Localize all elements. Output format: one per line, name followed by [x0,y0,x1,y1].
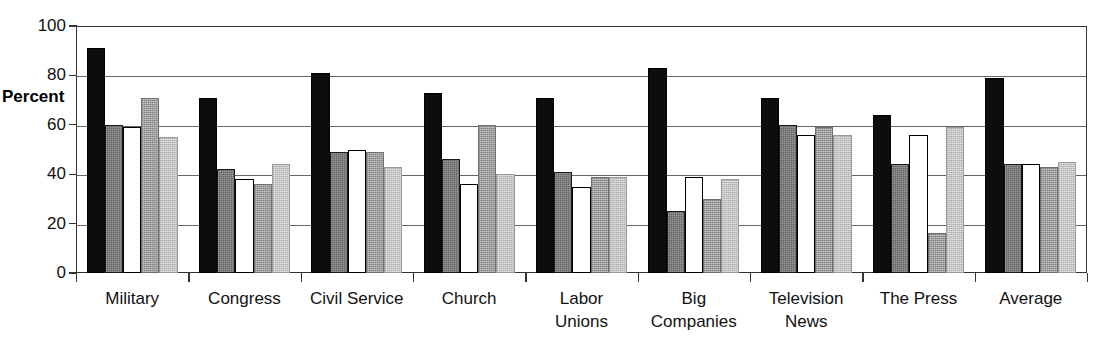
y-tick-label: 100 [0,17,66,34]
bar [797,135,815,273]
bar [442,159,460,273]
bar [1004,164,1022,273]
x-tick-mark [638,273,639,282]
y-tick-mark [69,124,77,125]
x-axis-label-line: News [750,310,862,333]
bar [591,177,609,273]
bar [648,68,666,273]
bar [199,98,217,273]
x-axis-label: Church [413,287,525,310]
bar [348,150,366,274]
x-tick-mark [413,273,414,282]
x-axis-label-line: Congress [208,289,281,308]
x-axis-label: Average [975,287,1087,310]
y-tick-label: 0 [0,264,66,281]
x-axis-label: LaborUnions [525,287,637,333]
y-tick-label: 80 [0,66,66,83]
bar [536,98,554,273]
bar [105,125,123,273]
bar-group [873,26,964,273]
bar [366,152,384,273]
bar-group [424,26,515,273]
bar-chart: 020406080100 Percent MilitaryCongressCiv… [0,0,1101,353]
bars-layer [76,26,1087,273]
x-axis-label-line: Companies [638,310,750,333]
x-tick-mark [862,273,863,282]
x-axis-ticks [76,273,1087,282]
bar-group [985,26,1076,273]
x-tick-mark [301,273,302,282]
bar [478,125,496,273]
bar [424,93,442,273]
bar [272,164,290,273]
bar [1058,162,1076,273]
bar [928,233,946,273]
y-tick-mark [69,25,77,26]
bar [909,135,927,273]
y-tick-mark [69,174,77,175]
bar [1040,167,1058,273]
y-tick-label: 40 [0,165,66,182]
bar [554,172,572,273]
x-axis-label: Congress [188,287,300,310]
bar [496,174,514,273]
bar [572,187,590,273]
bar-group [87,26,178,273]
y-tick-mark [69,272,77,273]
x-tick-mark [525,273,526,282]
x-tick-mark [188,273,189,282]
x-axis-label-line: Civil Service [310,289,404,308]
x-tick-mark [76,273,77,282]
x-axis-label: TelevisionNews [750,287,862,333]
y-tick-label: 20 [0,215,66,232]
bar [609,177,627,273]
y-tick-mark [69,223,77,224]
bar [87,48,105,273]
x-tick-mark [750,273,751,282]
bar-group [761,26,852,273]
bar [873,115,891,273]
bar [235,179,253,273]
bar-group [199,26,290,273]
bar [721,179,739,273]
bar [703,199,721,273]
x-axis-label: BigCompanies [638,287,750,333]
bar [685,177,703,273]
x-tick-mark [1087,273,1088,282]
x-axis-label-line: Military [105,289,159,308]
bar [1022,164,1040,273]
x-axis-label-line: Unions [525,310,637,333]
bar [123,127,141,273]
x-axis-label: The Press [862,287,974,310]
bar [761,98,779,273]
x-axis-labels: MilitaryCongressCivil ServiceChurchLabor… [76,287,1087,351]
bar [833,135,851,273]
x-axis-label-line: Television [769,289,844,308]
bar [384,167,402,273]
x-axis-label-line: The Press [880,289,957,308]
bar [891,164,909,273]
x-axis-label: Civil Service [301,287,413,310]
x-axis-label-line: Labor [560,289,603,308]
x-axis-label-line: Average [999,289,1062,308]
bar [667,211,685,273]
bar [159,137,177,273]
bar [815,127,833,273]
x-axis-label-line: Church [442,289,497,308]
bar-group [311,26,402,273]
bar-group [536,26,627,273]
y-tick-mark [69,75,77,76]
x-tick-mark [975,273,976,282]
y-axis: 020406080100 [0,0,66,353]
bar [254,184,272,273]
bar [311,73,329,273]
bar [217,169,235,273]
y-tick-label: 60 [0,116,66,133]
bar [141,98,159,273]
bar [985,78,1003,273]
x-axis-label-line: Big [682,289,707,308]
bar [946,127,964,273]
x-axis-label: Military [76,287,188,310]
bar-group [648,26,739,273]
bar [460,184,478,273]
